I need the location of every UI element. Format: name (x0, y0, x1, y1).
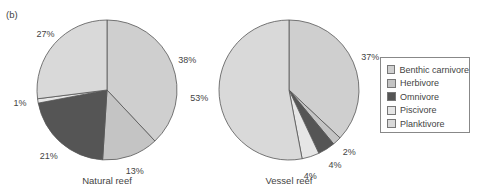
slice-label: 53% (190, 93, 208, 103)
legend-item-benthic-carnivore: Benthic carnivore (387, 63, 469, 77)
swatch-piscivore (387, 106, 396, 115)
swatch-herbivore (387, 79, 396, 88)
legend: Benthic carnivore Herbivore Omnivore Pis… (380, 57, 470, 133)
natural-reef-caption: Natural reef (82, 175, 132, 186)
vessel-reef-caption: Vessel reef (266, 175, 313, 186)
slice-label: 38% (178, 55, 196, 65)
legend-item-omnivore: Omnivore (387, 90, 469, 104)
legend-item-herbivore: Herbivore (387, 77, 469, 91)
natural-reef-pie: 38%13%21%1%27% (14, 20, 197, 176)
swatch-benthic-carnivore (387, 65, 395, 74)
swatch-planktivore (387, 119, 396, 128)
panel-label: (b) (6, 9, 18, 20)
slice-label: 21% (40, 151, 58, 161)
swatch-omnivore (387, 92, 396, 101)
slice-label: 1% (14, 98, 27, 108)
slice-label: 27% (36, 29, 54, 39)
slice-label: 2% (343, 147, 356, 157)
legend-item-planktivore: Planktivore (387, 117, 469, 131)
slice-label: 37% (361, 52, 379, 62)
slice-label: 4% (328, 160, 341, 170)
legend-item-piscivore: Piscivore (387, 104, 469, 118)
vessel-reef-pie: 37%2%4%4%53% (190, 20, 379, 181)
